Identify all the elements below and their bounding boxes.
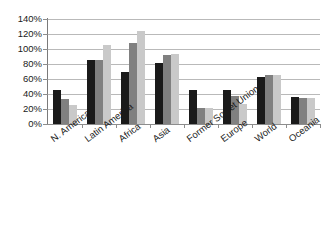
- bar: [291, 97, 299, 124]
- x-tick: [150, 124, 151, 128]
- x-tick: [184, 124, 185, 128]
- x-tick: [82, 124, 83, 128]
- y-axis-tick-label: 100%: [2, 44, 42, 54]
- bar: [299, 98, 307, 124]
- x-tick: [286, 124, 287, 128]
- y-tick: [43, 109, 48, 110]
- bar: [189, 90, 197, 124]
- x-axis-tick-label: Asia: [151, 125, 171, 144]
- x-tick: [218, 124, 219, 128]
- bar-group: [121, 19, 145, 124]
- y-tick: [43, 94, 48, 95]
- y-tick: [43, 124, 48, 125]
- x-tick: [252, 124, 253, 128]
- bar: [95, 60, 103, 125]
- y-axis-tick-label: 120%: [2, 29, 42, 39]
- bar: [171, 54, 179, 124]
- bar: [103, 45, 111, 124]
- bar: [231, 96, 239, 125]
- bar: [53, 90, 61, 124]
- bar-group: [155, 19, 179, 124]
- y-axis-tick-label: 20%: [2, 104, 42, 114]
- y-axis-tick-label: 80%: [2, 59, 42, 69]
- bar: [223, 90, 231, 124]
- bar-group: [291, 19, 315, 124]
- bar-group: [257, 19, 281, 124]
- bar-chart: 0%20%40%60%80%100%120%140% N. AmericaLat…: [0, 0, 325, 235]
- bar-group: [189, 19, 213, 124]
- bar: [87, 60, 95, 125]
- bar: [121, 72, 129, 125]
- plot-area: [48, 19, 320, 124]
- bar: [239, 104, 247, 124]
- bar: [129, 43, 137, 124]
- y-tick: [43, 34, 48, 35]
- x-tick: [116, 124, 117, 128]
- y-tick: [43, 49, 48, 50]
- bar: [163, 55, 171, 124]
- bar: [155, 63, 163, 124]
- x-tick: [320, 124, 321, 128]
- y-axis-tick-label: 140%: [2, 14, 42, 24]
- bar: [205, 108, 213, 125]
- bar: [273, 75, 281, 125]
- y-tick: [43, 79, 48, 80]
- bar-group: [53, 19, 77, 124]
- bar: [257, 77, 265, 124]
- y-axis-tick-label: 0%: [2, 119, 42, 129]
- bar: [61, 99, 69, 125]
- bar-group: [223, 19, 247, 124]
- bar: [307, 98, 315, 124]
- bar: [197, 108, 205, 125]
- y-axis-tick-label: 60%: [2, 74, 42, 84]
- bar: [265, 75, 273, 124]
- y-axis-tick-label: 40%: [2, 89, 42, 99]
- bar-group: [87, 19, 111, 124]
- y-tick: [43, 64, 48, 65]
- bar: [137, 31, 145, 124]
- bar: [69, 105, 77, 125]
- y-tick: [43, 19, 48, 20]
